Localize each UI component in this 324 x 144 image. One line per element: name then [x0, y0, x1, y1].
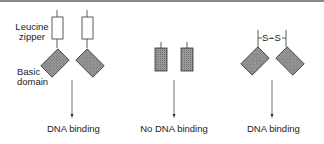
- panel-disulfide: [241, 30, 304, 118]
- basic-domain-right: [181, 48, 193, 71]
- basic-domain-left: [155, 48, 167, 71]
- basic-domain-left: [241, 47, 269, 75]
- arrow-down-icon: [173, 114, 176, 118]
- basic-domain-label-line2: domain: [17, 77, 48, 87]
- leucine-zipper-right: [82, 17, 93, 39]
- arrow-down-icon: [71, 114, 74, 118]
- leucine-zipper-left: [52, 17, 63, 39]
- result-label-disulfide: DNA binding: [247, 124, 297, 134]
- leucine-zipper-label: Leucine zipper: [12, 22, 52, 42]
- leucine-zipper-label-line2: zipper: [12, 32, 52, 42]
- basic-domain-right: [276, 47, 304, 75]
- result-label-no-zipper: No DNA binding: [140, 124, 208, 134]
- result-label-wild-type: DNA binding: [47, 124, 97, 134]
- arrow-down-icon: [271, 114, 274, 118]
- basic-domain-right: [76, 49, 104, 77]
- panel-no-zipper: [155, 42, 193, 118]
- basic-domain-label: Basic domain: [17, 67, 48, 87]
- disulfide-bond-label: S–S: [262, 33, 281, 43]
